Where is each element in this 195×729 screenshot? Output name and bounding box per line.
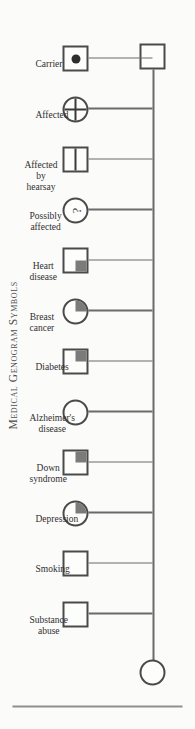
genogram-spine	[152, 52, 154, 672]
quarter-fill-icon	[75, 502, 86, 513]
connector-line	[88, 57, 152, 59]
legend-label-line: syndrome	[29, 474, 66, 485]
legend-label-line: abuse	[29, 625, 68, 636]
symbol-circle-question-mark: ?	[62, 197, 88, 223]
legend-label-text: Depression	[35, 513, 78, 524]
symbol-circle-quarter-bottom-right	[62, 298, 88, 324]
connector-line	[88, 107, 152, 109]
legend-label-text: Alzheimer'sdisease	[29, 412, 75, 434]
horizontal-bar-icon	[74, 149, 76, 171]
legend-label-line: by	[24, 171, 57, 182]
symbol-square-quarter-bottom-left	[62, 248, 88, 274]
tail-square	[139, 43, 165, 69]
quarter-fill-icon	[75, 261, 86, 272]
quarter-fill-icon	[75, 300, 86, 311]
legend-label-line: Heart	[29, 261, 56, 272]
legend-label-text: Downsyndrome	[29, 463, 66, 485]
quarter-fill-icon	[75, 351, 86, 362]
legend-label-line: Down	[29, 463, 66, 474]
center-dot-icon	[71, 54, 80, 63]
legend-label-line: Possibly	[29, 210, 61, 221]
legend-label-line: Smoking	[35, 564, 69, 575]
legend-label-line: Depression	[35, 513, 78, 524]
legend-label-line: Breast	[29, 311, 54, 322]
legend-label-text: Substanceabuse	[29, 614, 68, 636]
legend-label-text: Affectedbyhearsay	[24, 160, 57, 193]
legend-label-text: Heartdisease	[29, 261, 56, 283]
quarter-fill-icon	[75, 452, 86, 463]
connector-line	[88, 562, 152, 564]
legend-label-text: Diabetes	[35, 362, 68, 373]
symbol-square-horizontal-bar	[62, 147, 88, 173]
connector-line	[88, 511, 152, 513]
legend-label-line: cancer	[29, 322, 54, 333]
connector-line	[88, 461, 152, 463]
legend-label-line: Alzheimer's	[29, 412, 75, 423]
connector-line	[88, 309, 152, 311]
question-mark-icon: ?	[64, 199, 86, 221]
legend-label-line: Substance	[29, 614, 68, 625]
connector-line	[88, 410, 152, 412]
page-title: Medical Genogram Symbols	[6, 281, 18, 429]
legend-label-line: disease	[29, 423, 75, 434]
legend-label-line: Carrier	[35, 59, 62, 70]
legend-label-text: Carrier	[35, 59, 62, 70]
legend-label-line: affected	[29, 221, 61, 232]
legend-label-line: Affected	[35, 109, 68, 120]
legend-label-line: disease	[29, 272, 56, 283]
connector-line	[88, 208, 152, 210]
genogram-figure: Medical Genogram Symbols SubstanceabuseS…	[0, 0, 195, 729]
legend-label-line: Affected	[24, 160, 57, 171]
connector-line	[88, 360, 152, 362]
legend-label-line: Diabetes	[35, 362, 68, 373]
connector-line	[88, 158, 152, 160]
legend-label-text: Smoking	[35, 564, 69, 575]
symbol-square-center-dot	[62, 46, 88, 72]
legend-label-text: Breastcancer	[29, 311, 54, 333]
root-circle	[139, 659, 165, 685]
connector-line	[88, 612, 152, 614]
legend-label-line: hearsay	[24, 182, 57, 193]
connector-line	[88, 259, 152, 261]
legend-label-text: Affected	[35, 109, 68, 120]
legend-label-text: Possiblyaffected	[29, 210, 61, 232]
title-rule	[12, 705, 182, 707]
